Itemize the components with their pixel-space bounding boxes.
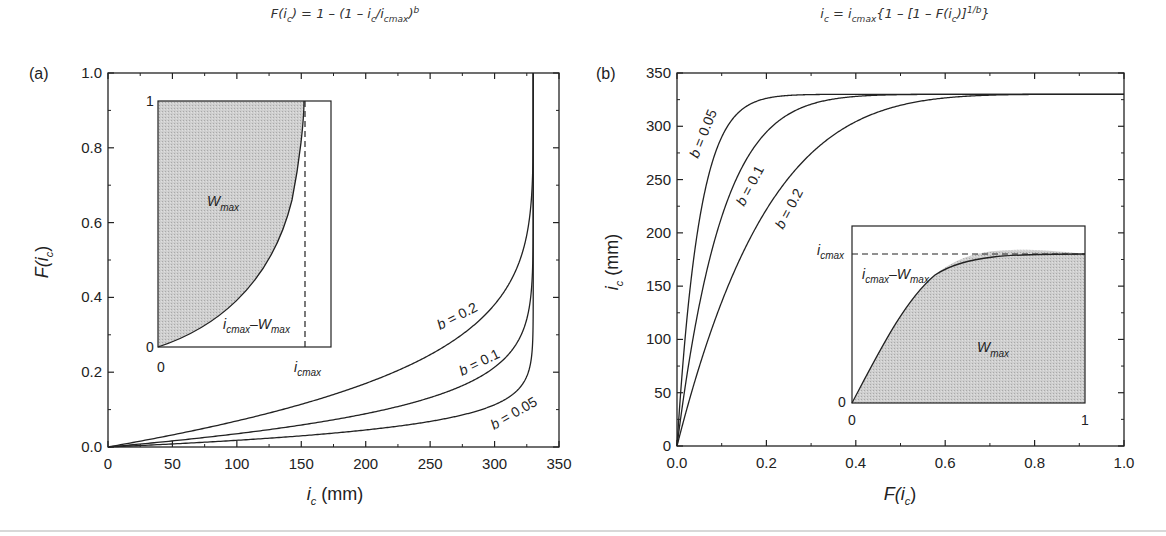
panel-b-title: ic = icmax{1 – [1 – F(ic)]1/b} bbox=[820, 5, 989, 24]
panel-a-ytick-label: 1.0 bbox=[81, 64, 102, 81]
panel-b-xtick-label: 0.4 bbox=[845, 454, 866, 471]
panel-b-inset: icmax 0 0 1 Wmax icmax–Wmax bbox=[817, 226, 1089, 428]
inset-a-xtick-0: 0 bbox=[157, 359, 165, 375]
curve-label-b02-b: b = 0.2 bbox=[772, 186, 807, 232]
panel-b-xtick-label: 1.0 bbox=[1114, 454, 1135, 471]
panel-a-xtick-label: 350 bbox=[546, 455, 571, 472]
panel-a-xtick-label: 300 bbox=[482, 455, 507, 472]
panel-a: F(ic) = 1 – (1 – ic/icmax)b (a) 05010015… bbox=[29, 5, 572, 507]
inset-b-complement-label: icmax–Wmax bbox=[862, 266, 930, 285]
inset-b-xtick-1: 1 bbox=[1081, 412, 1089, 428]
inset-b-ytick-icmax: icmax bbox=[817, 242, 845, 261]
inset-b-shaded-area bbox=[852, 250, 1085, 403]
panel-a-ytick-label: 0.0 bbox=[81, 438, 102, 455]
inset-a-ytick-0: 0 bbox=[146, 339, 154, 355]
panel-a-inset: 1 0 0 icmax Wmax icmax–Wmax bbox=[146, 93, 331, 378]
panel-b-ytick-label: 100 bbox=[646, 330, 671, 347]
panel-a-ytick-label: 0.4 bbox=[81, 288, 102, 305]
panel-b-ytick-label: 50 bbox=[654, 384, 671, 401]
curve-label-b01-b: b = 0.1 bbox=[733, 163, 768, 209]
panel-a-ytick-label: 0.8 bbox=[81, 139, 102, 156]
curve-label-b01: b = 0.1 bbox=[456, 345, 502, 378]
panel-b-ylabel: ic (mm) bbox=[602, 234, 625, 290]
panel-a-xtick-label: 0 bbox=[104, 455, 112, 472]
panel-b-ytick-label: 200 bbox=[646, 224, 671, 241]
inset-a-complement-label: icmax–Wmax bbox=[223, 316, 291, 335]
panel-b-xlabel: F(ic) bbox=[884, 484, 917, 507]
panel-b-ytick-label: 150 bbox=[646, 277, 671, 294]
panel-a-xtick-label: 100 bbox=[224, 455, 249, 472]
figure: F(ic) = 1 – (1 – ic/icmax)b (a) 05010015… bbox=[0, 0, 1166, 536]
panel-a-xtick-label: 250 bbox=[418, 455, 443, 472]
panel-a-xtick-label: 200 bbox=[353, 455, 378, 472]
curve-label-b005-b: b = 0.05 bbox=[686, 107, 720, 160]
inset-b-ytick-0: 0 bbox=[838, 394, 846, 410]
inset-a-ytick-1: 1 bbox=[146, 93, 154, 109]
panel-b-xtick-label: 0.8 bbox=[1024, 454, 1045, 471]
panel-a-ytick-label: 0.6 bbox=[81, 214, 102, 231]
panel-b-ytick-label: 0 bbox=[663, 437, 671, 454]
panel-a-xtick-label: 50 bbox=[164, 455, 181, 472]
panel-a-title: F(ic) = 1 – (1 – ic/icmax)b bbox=[271, 5, 420, 24]
panel-a-xlabel: ic (mm) bbox=[307, 484, 363, 507]
panel-a-axes: 0501001502002503003500.00.20.40.60.81.0 bbox=[81, 64, 571, 472]
panel-b: ic = icmax{1 – [1 – F(ic)]1/b} (b) 0.00.… bbox=[596, 5, 1134, 507]
panel-b-xtick-label: 0.0 bbox=[667, 454, 688, 471]
panel-b-ytick-label: 300 bbox=[646, 117, 671, 134]
inset-a-xtick-icmax: icmax bbox=[294, 359, 322, 378]
panel-a-ylabel: F(ic) bbox=[32, 246, 55, 279]
inset-b-xtick-0: 0 bbox=[848, 412, 856, 428]
panel-a-ytick-label: 0.2 bbox=[81, 363, 102, 380]
panel-b-xtick-label: 0.2 bbox=[756, 454, 777, 471]
panel-b-ytick-label: 350 bbox=[646, 64, 671, 81]
panel-b-xtick-label: 0.6 bbox=[935, 454, 956, 471]
panel-a-label: (a) bbox=[29, 65, 49, 82]
inset-a-shaded-area bbox=[158, 101, 304, 347]
panel-b-label: (b) bbox=[596, 65, 616, 82]
curve-label-b02: b = 0.2 bbox=[434, 299, 480, 333]
curve-label-b005: b = 0.05 bbox=[488, 393, 540, 432]
panel-a-xtick-label: 150 bbox=[289, 455, 314, 472]
panel-b-ytick-label: 250 bbox=[646, 171, 671, 188]
page-divider bbox=[0, 530, 1166, 532]
